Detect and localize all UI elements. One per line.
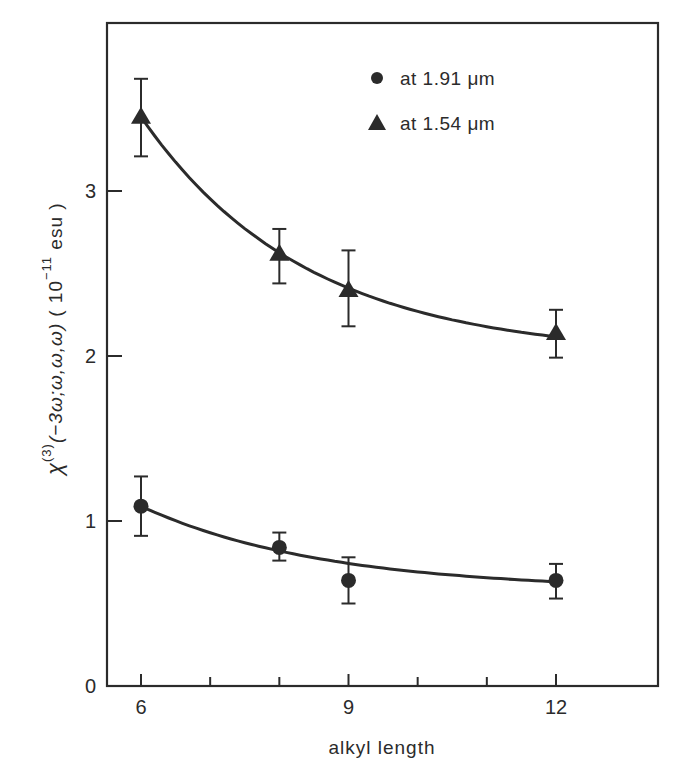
legend-item-triangle: at 1.54 μm — [368, 113, 495, 134]
legend-label-1: at 1.91 μm — [400, 68, 495, 89]
y-axis-unit-open: ( 10 — [45, 280, 66, 317]
legend: at 1.91 μm at 1.54 μm — [368, 68, 495, 134]
triangle-marker-icon — [339, 280, 359, 297]
y-axis-ticks: 0123 — [85, 180, 122, 697]
circle-marker-icon — [272, 540, 287, 555]
plot-frame — [107, 23, 658, 686]
y-axis-superscript: (3) — [39, 443, 54, 462]
legend-label-2: at 1.54 μm — [400, 113, 495, 134]
y-tick-label: 3 — [85, 180, 96, 202]
y-tick-label: 2 — [85, 345, 96, 367]
y-tick-label: 0 — [85, 675, 96, 697]
circle-marker-icon — [134, 499, 149, 514]
circle-marker-icon — [341, 573, 356, 588]
circle-marker-icon — [549, 573, 564, 588]
y-axis-arguments: (−3ω;ω,ω,ω) — [45, 323, 66, 443]
chart: 6912 0123 at 1.91 μm at 1.54 μm alkyl le… — [0, 0, 680, 782]
y-tick-label: 1 — [85, 510, 96, 532]
y-axis-title: χ(3)(−3ω;ω,ω,ω)( 10−11 esu ) — [39, 202, 67, 477]
triangle-marker-icon — [131, 107, 151, 124]
x-tick-label: 9 — [343, 696, 354, 718]
x-axis-title: alkyl length — [328, 737, 435, 758]
data-markers — [131, 107, 566, 588]
triangle-marker-icon — [546, 323, 566, 340]
legend-item-circle: at 1.91 μm — [371, 68, 495, 89]
triangle-marker-icon — [269, 244, 289, 261]
svg-text:χ(3)(−3ω;ω,ω,ω)( 10−11 esu ): χ(3)(−3ω;ω,ω,ω)( 10−11 esu ) — [39, 202, 67, 477]
y-axis-unit-exponent: −11 — [39, 256, 54, 280]
y-axis-symbol: χ — [42, 462, 67, 477]
error-bars — [134, 79, 563, 604]
fit-curves — [141, 117, 556, 582]
x-tick-label: 6 — [135, 696, 146, 718]
x-tick-label: 12 — [545, 696, 567, 718]
circle-marker-icon — [371, 72, 383, 84]
y-axis-unit-close: esu ) — [45, 202, 66, 256]
x-axis-ticks: 6912 — [135, 674, 567, 718]
triangle-marker-icon — [368, 114, 386, 130]
